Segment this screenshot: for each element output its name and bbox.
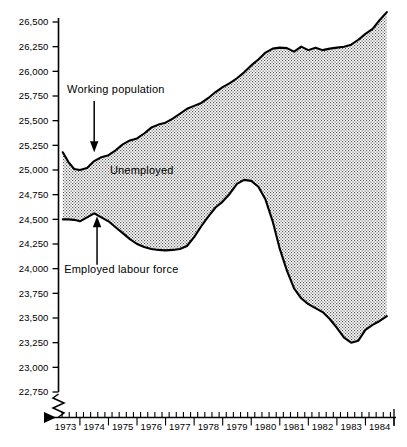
annotation-arrow-head-icon — [93, 216, 101, 227]
x-tick-label: 1979 — [226, 421, 248, 432]
y-tick-label: 25,750 — [19, 90, 49, 101]
x-tick-label: 1981 — [283, 421, 305, 432]
x-tick-label: 1984 — [369, 421, 391, 432]
plot-area — [63, 12, 387, 343]
y-axis — [53, 18, 64, 417]
unemployed-band — [63, 12, 387, 343]
x-tick-label: 1980 — [255, 421, 277, 432]
annotation-label: Working population — [67, 83, 165, 95]
y-axis-ticks — [53, 22, 59, 392]
y-tick-label: 25,250 — [19, 140, 49, 151]
x-tick-label: 1983 — [340, 421, 362, 432]
y-tick-label: 26,000 — [19, 66, 49, 77]
y-tick-label: 26,500 — [19, 16, 49, 27]
y-tick-label: 23,250 — [19, 337, 49, 348]
y-tick-label: 24,250 — [19, 238, 49, 249]
x-tick-label: 1976 — [141, 421, 163, 432]
y-tick-label: 25,000 — [19, 164, 49, 175]
x-tick-label: 1977 — [169, 421, 191, 432]
annotation-unemployed: Unemployed — [110, 164, 174, 176]
y-tick-label: 26,250 — [19, 41, 49, 52]
chart-container: 26,50026,25026,00025,75025,50025,25025,0… — [0, 0, 407, 447]
unemployment-area-chart: 26,50026,25026,00025,75025,50025,25025,0… — [0, 0, 407, 447]
y-tick-label: 25,500 — [19, 115, 49, 126]
y-tick-label: 23,000 — [19, 362, 49, 373]
x-tick-label: 1982 — [312, 421, 334, 432]
annotation-label: Unemployed — [110, 164, 174, 176]
x-tick-label: 1975 — [112, 421, 134, 432]
annotation-arrow-head-icon — [90, 141, 98, 152]
y-axis-tick-labels: 26,50026,25026,00025,75025,50025,25025,0… — [19, 16, 49, 397]
y-tick-label: 24,500 — [19, 214, 49, 225]
x-tick-label: 1978 — [198, 421, 220, 432]
x-tick-label: 1973 — [55, 421, 77, 432]
annotation-label: Employed labour force — [64, 263, 178, 275]
y-tick-label: 22,750 — [19, 386, 49, 397]
y-tick-label: 23,750 — [19, 288, 49, 299]
y-tick-label: 23,500 — [19, 312, 49, 323]
y-tick-label: 24,000 — [19, 263, 49, 274]
y-tick-label: 24,750 — [19, 189, 49, 200]
x-tick-label: 1974 — [83, 421, 105, 432]
